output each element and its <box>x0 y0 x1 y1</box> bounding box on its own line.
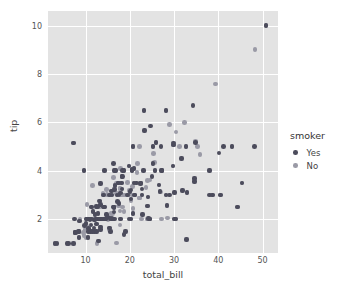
data-point <box>71 141 76 146</box>
y-tick-label-8: 8 <box>37 69 42 78</box>
data-point <box>252 144 257 149</box>
data-point <box>217 151 222 156</box>
data-point <box>135 170 140 175</box>
legend-item-label: No <box>307 161 319 171</box>
data-point <box>154 140 159 145</box>
gridline-horizontal-8 <box>48 74 278 75</box>
legend-marker-icon <box>293 163 298 168</box>
data-point <box>221 144 226 149</box>
data-point <box>235 205 240 210</box>
legend-item-no[interactable]: No <box>290 159 325 172</box>
data-point <box>153 168 158 173</box>
data-point <box>184 237 189 242</box>
data-point <box>132 193 137 198</box>
data-point <box>111 175 116 180</box>
data-point <box>137 144 142 149</box>
y-tick-label-2: 2 <box>37 215 42 224</box>
data-point <box>108 216 113 221</box>
data-point <box>151 161 156 166</box>
data-point <box>165 203 170 208</box>
data-point <box>142 128 147 133</box>
data-point <box>130 168 135 173</box>
data-point <box>131 211 136 216</box>
data-point <box>111 205 116 210</box>
data-point <box>102 168 107 173</box>
data-point <box>120 187 125 192</box>
gridline-vertical-50 <box>263 11 264 253</box>
legend: smoker YesNo <box>290 130 325 172</box>
data-point <box>90 183 95 188</box>
data-point <box>112 210 117 215</box>
gridline-vertical-40 <box>218 11 219 253</box>
legend-item-label: Yes <box>307 148 321 158</box>
y-tick-label-10: 10 <box>32 21 42 30</box>
data-point <box>131 206 136 211</box>
data-point <box>90 229 95 234</box>
data-point <box>119 181 124 186</box>
data-point <box>112 187 117 192</box>
data-point <box>185 190 190 195</box>
data-point <box>146 195 151 200</box>
data-point <box>180 188 185 193</box>
legend-item-yes[interactable]: Yes <box>290 146 325 159</box>
data-point <box>151 151 156 156</box>
data-point <box>73 230 78 235</box>
data-point <box>112 168 117 173</box>
data-point <box>110 193 115 198</box>
data-point <box>138 181 143 186</box>
data-point <box>115 199 120 204</box>
data-point <box>167 122 172 127</box>
data-point <box>193 140 198 145</box>
data-point <box>66 241 71 246</box>
data-point <box>125 180 130 185</box>
data-point <box>82 168 87 173</box>
data-point <box>114 241 119 246</box>
data-point <box>145 204 150 209</box>
data-point <box>230 144 235 149</box>
data-point <box>144 185 149 190</box>
data-point <box>142 108 147 113</box>
x-tick-label-10: 10 <box>81 256 91 265</box>
x-tick-label-20: 20 <box>125 256 135 265</box>
data-point <box>172 217 177 222</box>
x-axis-label: total_bill <box>48 269 278 280</box>
data-point <box>165 216 170 221</box>
data-point <box>159 217 164 222</box>
data-point <box>184 144 189 149</box>
x-tick-label-50: 50 <box>257 256 267 265</box>
data-point <box>145 178 150 183</box>
gridline-horizontal-6 <box>48 122 278 123</box>
data-point <box>118 223 123 228</box>
data-point <box>164 108 169 113</box>
data-point <box>118 217 123 222</box>
data-point <box>98 227 103 232</box>
scatter-plot-figure: 1020304050 246810 total_bill tip smoker … <box>0 0 341 293</box>
data-point <box>171 141 176 146</box>
data-point <box>111 161 116 166</box>
data-point <box>198 152 203 157</box>
data-point <box>148 124 153 129</box>
data-point <box>146 216 151 221</box>
data-point <box>210 193 215 198</box>
data-point <box>122 209 127 214</box>
data-point <box>131 144 136 149</box>
data-point <box>150 174 155 179</box>
data-point <box>182 120 187 125</box>
data-point <box>141 168 146 173</box>
y-tick-label-4: 4 <box>37 166 42 175</box>
legend-title: smoker <box>290 130 325 141</box>
data-point <box>139 217 144 222</box>
data-point <box>140 212 145 217</box>
data-point <box>157 183 162 188</box>
data-point <box>93 212 98 217</box>
data-point <box>195 144 200 149</box>
data-point <box>55 241 60 246</box>
x-tick-label-40: 40 <box>213 256 223 265</box>
legend-marker-icon <box>293 150 298 155</box>
data-point <box>253 47 258 52</box>
data-point <box>207 168 212 173</box>
data-point <box>95 205 100 210</box>
data-point <box>77 235 82 240</box>
data-point <box>101 193 106 198</box>
data-point <box>264 23 269 28</box>
